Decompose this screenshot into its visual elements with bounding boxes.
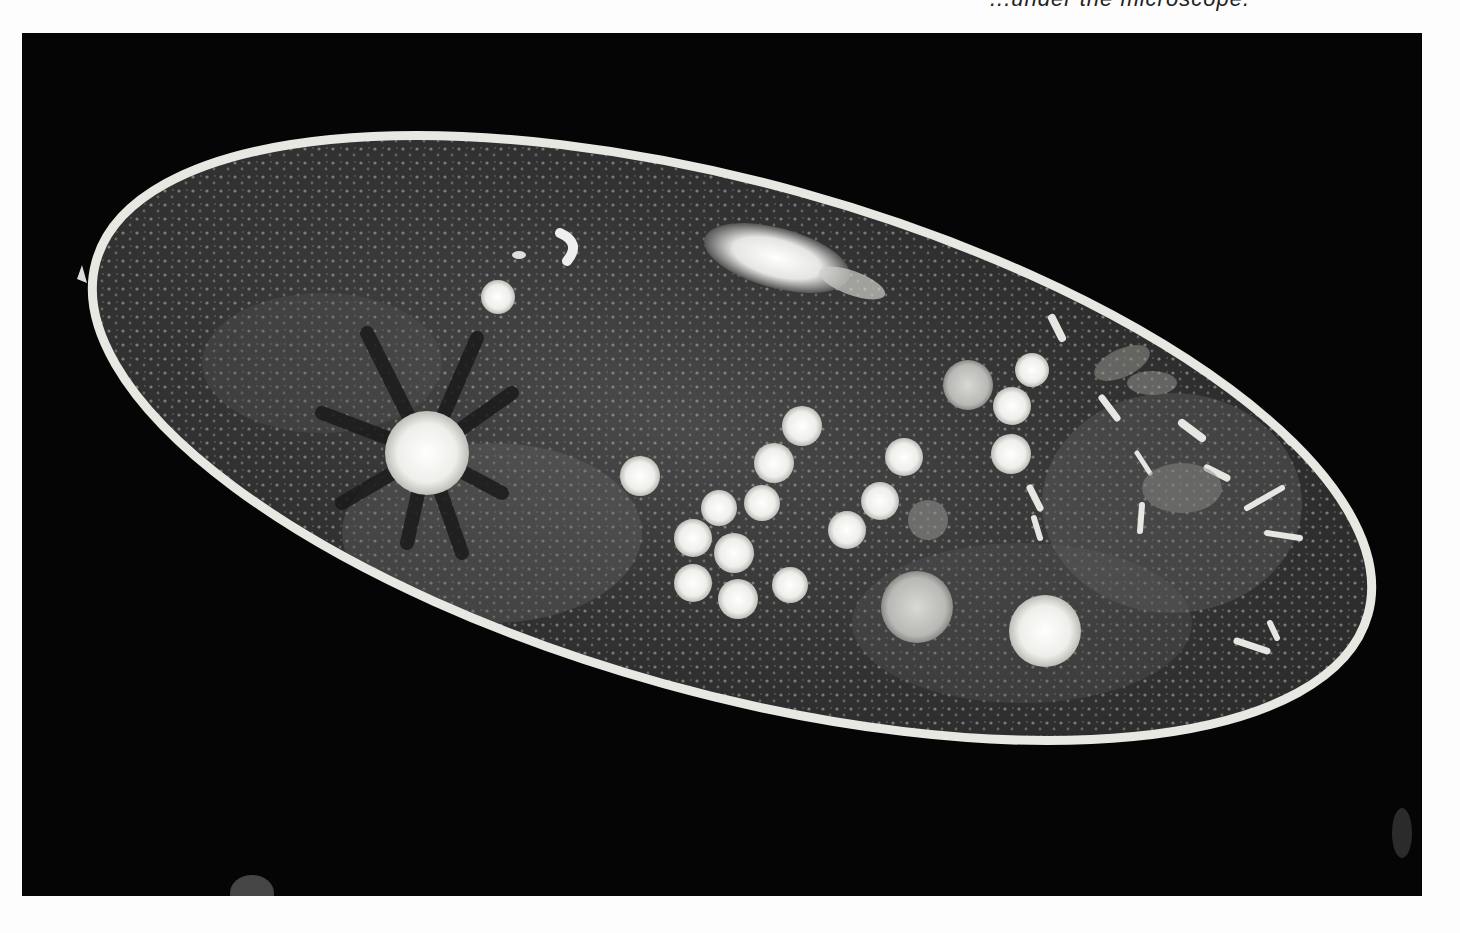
edge-particle xyxy=(1392,808,1412,858)
cell-body xyxy=(22,33,1422,896)
caption-fragment: ...under the microscope. xyxy=(990,0,1250,12)
paramecium-illustration xyxy=(22,33,1422,896)
contractile-vacuole-posterior xyxy=(1009,595,1081,667)
anterior-tip xyxy=(77,265,87,283)
out-of-focus-particle xyxy=(230,875,274,896)
micrograph-photo xyxy=(22,33,1422,896)
